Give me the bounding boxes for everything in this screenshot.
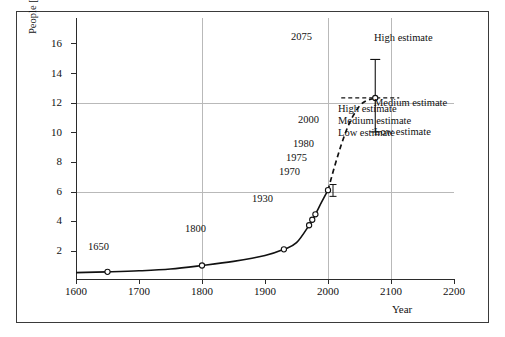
y-tick-label-10: 10 (40, 127, 62, 138)
point-label-1980: 1980 (293, 138, 314, 149)
x-tick-label-1600: 1600 (54, 286, 98, 297)
data-point-markers (105, 95, 378, 274)
y-tick-label-4: 4 (40, 215, 62, 226)
data-point-marker-2000 (325, 188, 330, 193)
y-tick-label-14: 14 (40, 68, 62, 79)
x-tick-label-2100: 2100 (369, 286, 413, 297)
point-label-1970: 1970 (279, 166, 300, 177)
data-point-marker-1970 (307, 223, 312, 228)
point-label-1800: 1800 (185, 223, 206, 234)
data-point-marker-1800 (199, 263, 204, 268)
estimate-label-2075-high: High estimate (374, 32, 433, 43)
x-tick-label-1700: 1700 (117, 286, 161, 297)
data-point-marker-1930 (281, 247, 286, 252)
y-tick-label-2: 2 (40, 245, 62, 256)
population-curve-svg (76, 18, 454, 280)
point-label-1975: 1975 (286, 152, 307, 163)
x-tick-label-2200: 2200 (432, 286, 476, 297)
plot-area: 1650 1800 1930 1970 1975 1980 2000 2075 … (76, 18, 454, 280)
estimate-label-2075-low: Low estimate (374, 126, 431, 137)
data-point-marker-1975 (310, 217, 315, 222)
point-label-2000: 2000 (298, 114, 319, 125)
x-tick-label-1800: 1800 (180, 286, 224, 297)
data-point-marker-1980 (313, 212, 318, 217)
x-tick-label-1900: 1900 (243, 286, 287, 297)
y-tick-label-12: 12 (40, 97, 62, 108)
y-axis-title-text: People [10 (27, 0, 38, 34)
x-tick-label-2000: 2000 (306, 286, 350, 297)
y-tick-label-6: 6 (40, 186, 62, 197)
point-label-1930: 1930 (252, 193, 273, 204)
data-point-marker-1650 (105, 269, 110, 274)
y-tick-label-8: 8 (40, 156, 62, 167)
x-tick-2200 (454, 279, 455, 284)
point-label-2075: 2075 (291, 31, 312, 42)
population-growth-figure: People [109] Year 16 14 12 10 8 6 4 2 16… (0, 0, 505, 337)
y-axis-title: People [109] (24, 0, 38, 34)
point-label-1650: 1650 (88, 241, 109, 252)
estimate-label-2000-medium: Medium estimate (338, 115, 411, 126)
x-axis-title: Year (392, 303, 412, 315)
estimate-label-2075-medium: Medium estimate (374, 97, 447, 108)
y-tick-label-16: 16 (40, 38, 62, 49)
